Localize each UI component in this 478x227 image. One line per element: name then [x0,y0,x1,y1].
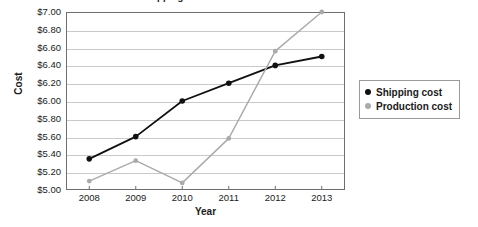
y-axis-title: Cost [13,59,24,109]
data-point-marker [133,158,138,163]
legend-marker-icon [365,89,371,95]
x-axis-tick-label: 2009 [113,192,159,203]
y-axis-tick-label: $5.20 [13,166,61,177]
data-point-marker [86,156,92,162]
x-axis-tick-label: 2012 [252,192,298,203]
data-point-marker [133,134,139,140]
data-series-layer [66,12,345,190]
legend-item-label: Production cost [376,101,452,112]
chart-title: Cost of Shipping and Production 2008-201… [66,0,346,2]
data-point-marker [87,179,92,184]
legend-item-label: Shipping cost [376,87,442,98]
data-point-marker [319,54,325,60]
data-point-marker [226,80,232,86]
y-axis-tick-label: $6.80 [13,24,61,35]
series-line [89,57,322,159]
series-line [89,12,322,183]
data-point-marker [180,180,185,185]
y-axis-tick-label: $5.40 [13,148,61,159]
y-axis-tick-label: $5.60 [13,131,61,142]
legend-marker-icon [365,103,371,109]
x-axis-tick-label: 2011 [206,192,252,203]
line-chart: Cost of Shipping and Production 2008-201… [0,0,478,227]
data-point-marker [226,136,231,141]
x-axis-tick-label: 2008 [66,192,112,203]
data-point-marker [272,63,278,69]
legend-item[interactable]: Shipping cost [365,85,452,99]
x-axis-tick-label: 2010 [159,192,205,203]
data-point-marker [179,98,185,104]
y-axis-tick-label: $7.00 [13,6,61,17]
x-axis-tick-label: 2013 [299,192,345,203]
y-axis-tick-label: $6.60 [13,42,61,53]
data-point-marker [273,49,278,54]
y-axis-tick-label: $5.80 [13,113,61,124]
chart-legend: Shipping costProduction cost [359,80,460,119]
legend-item[interactable]: Production cost [365,99,452,113]
y-axis-tick-label: $5.00 [13,184,61,195]
data-point-marker [319,10,324,15]
x-axis-title: Year [66,206,345,217]
